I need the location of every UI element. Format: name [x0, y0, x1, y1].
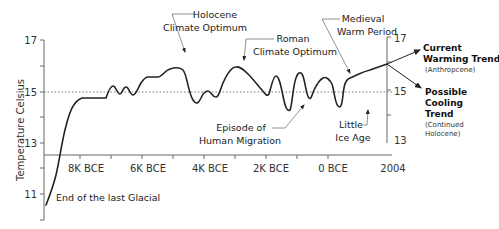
svg-text:Trend: Trend [425, 109, 454, 119]
annotation-migration: Episode of Human Migration [199, 105, 304, 146]
annotation-little-ice-age: Little Ice Age [335, 110, 370, 143]
temperature-chart: 17 15 13 11 Temperature Celsius 8K BCE 6… [0, 0, 499, 229]
svg-text:Little: Little [339, 119, 363, 130]
y-tick-15: 15 [24, 87, 37, 98]
x-tick-8k: 8K BCE [68, 163, 104, 174]
warming-trend-arrow [387, 50, 420, 64]
y-tick-13: 13 [24, 138, 37, 149]
svg-text:Ice Age: Ice Age [335, 132, 370, 143]
svg-text:(Anthropcene): (Anthropcene) [425, 66, 475, 74]
x-tick-4k: 4K BCE [192, 163, 228, 174]
svg-text:Episode of: Episode of [216, 122, 266, 133]
svg-text:Holocene): Holocene) [425, 130, 461, 138]
x-tick-6k: 6K BCE [130, 163, 166, 174]
svg-text:Holocene: Holocene [193, 9, 237, 20]
svg-text:Climate Optimum: Climate Optimum [163, 22, 247, 33]
left-y-axis: 17 15 13 11 Temperature Celsius [15, 35, 44, 220]
x-tick-2k: 2K BCE [253, 163, 289, 174]
x-axis: 8K BCE 6K BCE 4K BCE 2K BCE 0 BCE 2004 [44, 155, 406, 174]
annotation-cooling-trend: Possible Cooling Trend (Continued Holoce… [425, 87, 467, 138]
svg-text:Roman: Roman [276, 33, 309, 44]
svg-text:End of the last Glacial: End of the last Glacial [56, 192, 160, 203]
svg-text:Cooling: Cooling [425, 98, 463, 108]
svg-text:Current: Current [423, 43, 462, 53]
right-tick-13: 13 [394, 135, 407, 146]
svg-text:Climate Optimum: Climate Optimum [253, 46, 337, 57]
svg-text:Medieval: Medieval [342, 13, 385, 24]
svg-text:Human Migration: Human Migration [199, 135, 281, 146]
right-y-axis: 17 15 13 [387, 33, 407, 146]
x-tick-2004: 2004 [380, 163, 405, 174]
svg-text:Warm Period: Warm Period [337, 26, 397, 37]
annotation-holocene: Holocene Climate Optimum [163, 9, 247, 52]
y-tick-11: 11 [24, 189, 37, 200]
annotation-roman: Roman Climate Optimum [244, 33, 337, 60]
cooling-trend-arrow [387, 64, 421, 88]
svg-text:Possible: Possible [425, 87, 467, 97]
svg-text:(Continued: (Continued [425, 121, 464, 129]
annotation-warming-trend: Current Warming Trend (Anthropcene) [423, 43, 499, 74]
svg-text:Warming Trend: Warming Trend [423, 54, 499, 64]
right-tick-15: 15 [394, 86, 407, 97]
annotation-glacial: End of the last Glacial [56, 192, 160, 203]
y-tick-17: 17 [24, 35, 37, 46]
y-axis-title: Temperature Celsius [15, 79, 26, 182]
x-tick-0: 0 BCE [318, 163, 348, 174]
